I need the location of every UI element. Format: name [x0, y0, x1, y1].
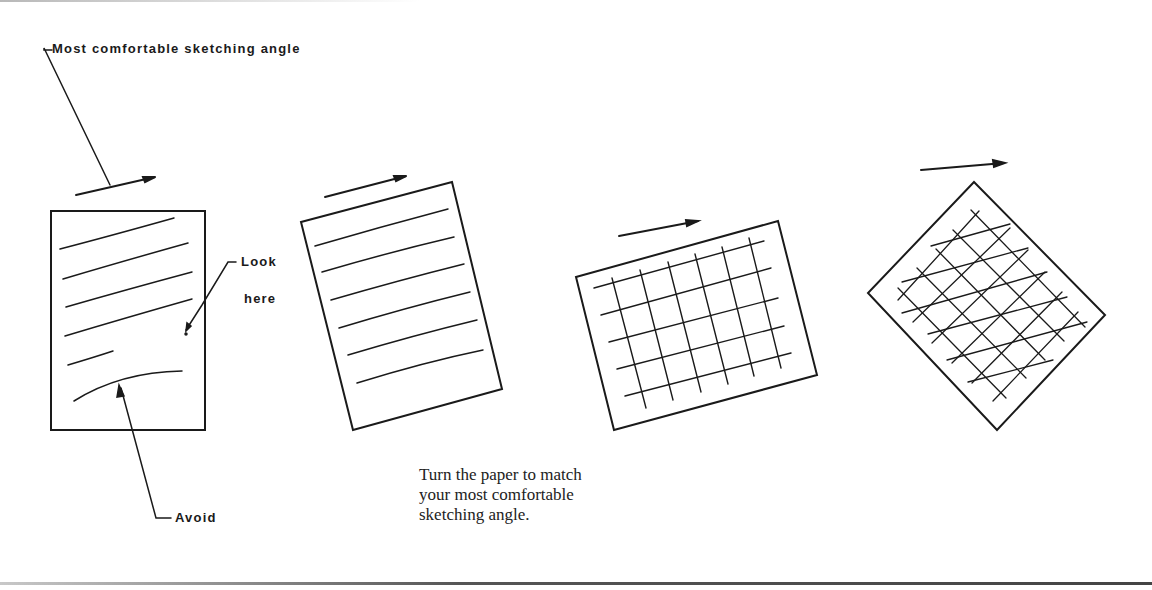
arrow-icon: [325, 176, 406, 197]
comfortable-angle-label: Most comfortable sketching angle: [52, 41, 301, 56]
tilted-grid-sheet: [576, 221, 817, 430]
arrow-icon: [619, 220, 698, 236]
upright-sheet: [51, 211, 236, 518]
diamond-grid-sheet: [868, 182, 1105, 430]
caption: Turn the paper to match your most comfor…: [419, 465, 679, 525]
look-here-arrow-icon: [185, 262, 236, 335]
direction-arrows: [76, 160, 1005, 236]
avoid-label: Avoid: [175, 510, 217, 525]
avoid-arrow-icon: [117, 385, 171, 518]
comfortable-angle-leader: [44, 48, 110, 185]
look-label: Look: [241, 254, 277, 269]
arrow-icon: [921, 160, 1005, 170]
caption-line: your most comfortable: [419, 485, 679, 505]
caption-line: sketching angle.: [419, 505, 679, 525]
here-label: here: [244, 291, 276, 306]
tilted-lined-sheet: [301, 182, 502, 430]
bottom-rule: [0, 582, 1152, 585]
arrow-icon: [76, 177, 155, 195]
caption-line: Turn the paper to match: [419, 465, 679, 485]
